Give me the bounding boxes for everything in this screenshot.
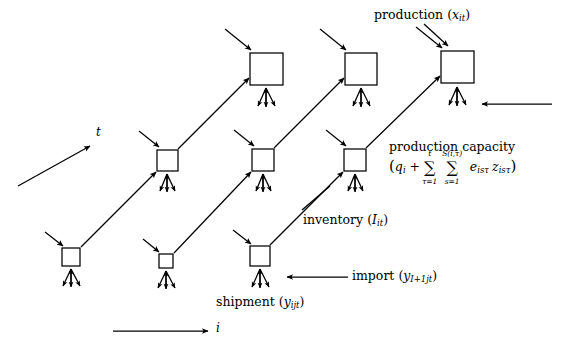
figure-root: t i production (xit) production capacity… xyxy=(0,0,568,352)
production-capacity-formula: (qi + t ∑ τ=1 S(i,τ) ∑ s=1 eisτzisτ) xyxy=(389,154,516,180)
time-axis-arrow xyxy=(18,146,90,186)
sum-tau: t ∑ τ=1 xyxy=(424,155,435,181)
production-capacity-label: production capacity (qi + t ∑ τ=1 S(i,τ)… xyxy=(389,140,516,181)
production-arrow-row3-col2 xyxy=(143,239,159,252)
node-row3-col3 xyxy=(250,246,270,266)
shipment-fan-row1-col2 xyxy=(353,88,370,107)
node-row1-col1 xyxy=(250,53,283,85)
production-arrow-row3-col1 xyxy=(45,232,63,246)
production-symbol: (xit) xyxy=(447,7,470,22)
inventory-symbol: (Iit) xyxy=(367,212,388,227)
shipment-fan-row3-col3 xyxy=(252,269,269,288)
production-arrow-row1-col2 xyxy=(320,29,346,50)
production-arrow-row1-col1 xyxy=(225,29,251,50)
node-row3-col1 xyxy=(62,248,80,266)
node-row1-col3 xyxy=(441,51,474,83)
production-arrow-row3-col3 xyxy=(233,230,251,244)
node-row1-col2 xyxy=(345,53,377,85)
node-row2-col3 xyxy=(344,149,366,171)
import-symbol: (yI+1jt) xyxy=(398,268,437,283)
inventory-label: inventory (Iit) xyxy=(303,213,388,229)
production-arrow-row2-col2 xyxy=(234,130,254,146)
sum-s: S(i,τ) ∑ s=1 xyxy=(446,155,457,181)
shipment-fan-row3-col1 xyxy=(63,269,80,287)
import-label: import (yI+1jt) xyxy=(352,269,437,285)
node-row2-col1 xyxy=(157,150,178,171)
shipment-fan-row2-col3 xyxy=(348,174,363,192)
shipment-fan-row1-col1 xyxy=(258,88,275,107)
location-axis-label: i xyxy=(216,322,220,336)
production-arrow-row2-col3 xyxy=(326,130,346,146)
production-label: production (xit) xyxy=(374,8,470,24)
shipment-label-text: shipment xyxy=(216,294,275,309)
shipment-fan-row1-col3 xyxy=(449,87,466,106)
shipment-fan-row2-col2 xyxy=(256,174,271,192)
production-label-text: production xyxy=(374,7,443,22)
production-arrow-row2-col1 xyxy=(139,131,159,147)
import-label-text: import xyxy=(352,268,394,283)
time-axis-label: t xyxy=(96,126,101,140)
shipment-fan-row3-col2 xyxy=(158,271,175,289)
shipment-fan-row2-col1 xyxy=(160,174,175,192)
shipment-label: shipment (yijt) xyxy=(216,295,304,311)
inventory-label-leader xyxy=(302,186,330,210)
inventory-label-text: inventory xyxy=(303,212,363,227)
node-row2-col2 xyxy=(252,149,274,171)
node-row3-col2 xyxy=(159,254,173,268)
shipment-symbol: (yijt) xyxy=(279,294,305,309)
